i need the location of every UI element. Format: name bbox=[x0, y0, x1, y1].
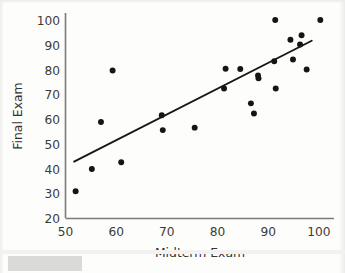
data-point bbox=[271, 58, 277, 64]
y-tick-label: 50 bbox=[44, 138, 60, 152]
data-point bbox=[251, 111, 257, 117]
y-tick-label: 20 bbox=[44, 212, 60, 226]
data-point bbox=[159, 112, 165, 118]
data-point bbox=[160, 127, 166, 133]
data-point bbox=[223, 66, 229, 72]
data-point bbox=[273, 86, 279, 92]
y-tick-label: 70 bbox=[44, 88, 60, 102]
data-point bbox=[256, 75, 262, 81]
data-point bbox=[299, 32, 305, 38]
data-point bbox=[73, 188, 79, 194]
data-point bbox=[317, 17, 323, 23]
data-point bbox=[98, 119, 104, 125]
y-tick-label: 40 bbox=[44, 163, 60, 177]
data-point bbox=[221, 86, 227, 92]
data-point bbox=[192, 125, 198, 131]
y-tick-label: 60 bbox=[44, 113, 60, 127]
chart-canvas: 2030405060708090100 5060708090100 Midter… bbox=[0, 0, 345, 273]
y-axis-title: Final Exam bbox=[10, 82, 25, 149]
data-point bbox=[272, 17, 278, 23]
data-point bbox=[304, 66, 310, 72]
x-tick-label: 60 bbox=[108, 225, 124, 239]
x-tick-label: 100 bbox=[307, 225, 330, 239]
data-point bbox=[89, 166, 95, 172]
data-point bbox=[248, 100, 254, 106]
x-tick-label: 70 bbox=[159, 225, 175, 239]
x-axis-title: Midterm Exam bbox=[155, 245, 245, 260]
data-point bbox=[297, 41, 303, 47]
data-point bbox=[287, 37, 293, 43]
y-tick-label: 80 bbox=[44, 64, 60, 78]
data-point bbox=[118, 159, 124, 165]
x-tick-label: 80 bbox=[210, 225, 226, 239]
scatter-plot-figure: 2030405060708090100 5060708090100 Midter… bbox=[0, 0, 345, 273]
data-point bbox=[237, 66, 243, 72]
x-tick-label: 50 bbox=[58, 225, 74, 239]
x-tick-label: 90 bbox=[260, 225, 276, 239]
data-point bbox=[110, 67, 116, 73]
y-tick-label: 30 bbox=[44, 187, 60, 201]
y-tick-label: 90 bbox=[44, 39, 60, 53]
y-tick-label: 100 bbox=[37, 14, 60, 28]
data-point bbox=[290, 57, 296, 63]
